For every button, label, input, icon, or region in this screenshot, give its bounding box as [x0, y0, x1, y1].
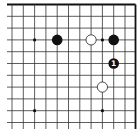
white-stone [97, 82, 107, 92]
black-stone [52, 35, 63, 46]
black-stone-icon [52, 35, 63, 46]
black-stone-icon [108, 35, 119, 46]
white-stone [86, 35, 96, 45]
white-stone-icon [86, 35, 96, 45]
black-stone-1: 1 [108, 58, 119, 69]
move-number-label: 1 [111, 59, 116, 68]
star-point [101, 109, 104, 112]
go-board: 1 [0, 0, 137, 135]
black-stone [108, 35, 119, 46]
star-point [33, 109, 36, 112]
white-stone-icon [97, 82, 107, 92]
star-point [33, 38, 36, 41]
star-point [101, 38, 104, 41]
